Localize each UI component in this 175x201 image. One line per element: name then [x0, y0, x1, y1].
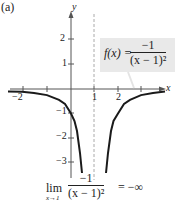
function-numerator: −1 [130, 39, 166, 53]
limit-fraction: −1 (x − 1)² [68, 172, 104, 200]
function-denominator: (x − 1)² [130, 53, 166, 67]
y-tick-label: 1 [62, 57, 67, 68]
limit-numerator: −1 [68, 172, 104, 186]
panel-label: (a) [1, 0, 14, 15]
x-tick-label: 1 [92, 91, 97, 102]
limit-denominator: (x − 1)² [68, 186, 104, 200]
limit-subscript: x→1 [46, 194, 60, 201]
x-tick-label: 2 [116, 91, 121, 102]
y-tick-label: −1 [56, 105, 67, 116]
x-axis-arrow-icon [159, 87, 166, 92]
y-tick-label: 2 [60, 32, 65, 43]
function-label-lhs: f(x) = [104, 46, 132, 61]
label-pointer-line [128, 72, 134, 88]
y-axis-label: y [72, 1, 76, 12]
y-tick-label: −3 [56, 155, 67, 166]
limit-result: = −∞ [118, 180, 143, 195]
x-axis-label: x [166, 82, 170, 93]
y-axis-arrow-icon [69, 11, 74, 18]
function-label-fraction: −1 (x − 1)² [130, 39, 166, 67]
y-tick-label: −2 [56, 130, 67, 141]
x-tick-label: −2 [12, 91, 23, 102]
curve-right-branch [106, 92, 165, 174]
